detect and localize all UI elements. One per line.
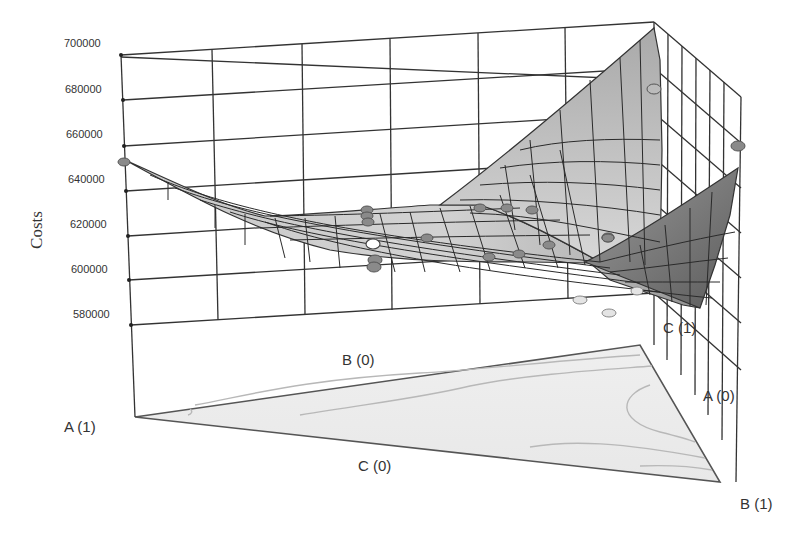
z-axis-title: Costs — [27, 211, 46, 249]
design-point — [526, 206, 538, 214]
design-point — [474, 204, 486, 212]
z-axis: 700000 680000 660000 640000 620000 60000… — [27, 37, 135, 417]
design-point — [543, 241, 555, 249]
z-tick-700000: 700000 — [64, 37, 101, 49]
label-c1: C (1) — [663, 319, 696, 336]
design-point — [367, 262, 381, 272]
design-point — [731, 141, 745, 151]
design-point — [421, 234, 433, 242]
design-point — [602, 309, 616, 317]
design-point — [366, 239, 380, 249]
label-a1: A (1) — [64, 418, 96, 435]
design-point — [501, 204, 513, 212]
design-point — [118, 158, 130, 166]
design-point — [631, 287, 643, 295]
label-a0: A (0) — [703, 387, 735, 404]
z-tick-600000: 600000 — [71, 263, 108, 275]
design-point — [647, 84, 661, 94]
label-b1: B (1) — [740, 495, 773, 512]
design-point — [573, 296, 587, 304]
z-tick-640000: 640000 — [68, 173, 105, 185]
response-surface-chart: 700000 680000 660000 640000 620000 60000… — [0, 0, 811, 543]
z-tick-660000: 660000 — [66, 128, 103, 140]
ternary-floor — [135, 345, 720, 482]
design-point — [513, 250, 525, 258]
design-point — [362, 218, 374, 226]
label-c0: C (0) — [358, 457, 391, 474]
z-tick-620000: 620000 — [70, 218, 107, 230]
label-b0: B (0) — [342, 351, 375, 368]
design-point — [483, 253, 495, 261]
design-point — [602, 234, 614, 242]
z-tick-580000: 580000 — [73, 308, 110, 320]
z-tick-680000: 680000 — [65, 83, 102, 95]
